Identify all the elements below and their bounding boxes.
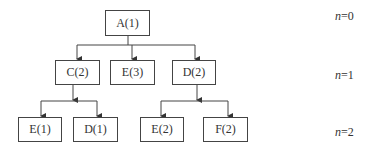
node-e2: E(2) <box>140 117 184 142</box>
node-f2: F(2) <box>203 117 248 142</box>
node-d1: D(1) <box>73 117 118 142</box>
level-label-0: n=0 <box>335 9 354 24</box>
node-a1: A(1) <box>105 10 150 36</box>
level-label-1: n=1 <box>335 68 354 83</box>
node-d2: D(2) <box>172 60 216 85</box>
node-e1: E(1) <box>18 117 62 142</box>
node-c2: C(2) <box>55 60 100 85</box>
node-e3: E(3) <box>110 60 155 85</box>
level-label-2: n=2 <box>335 125 354 140</box>
